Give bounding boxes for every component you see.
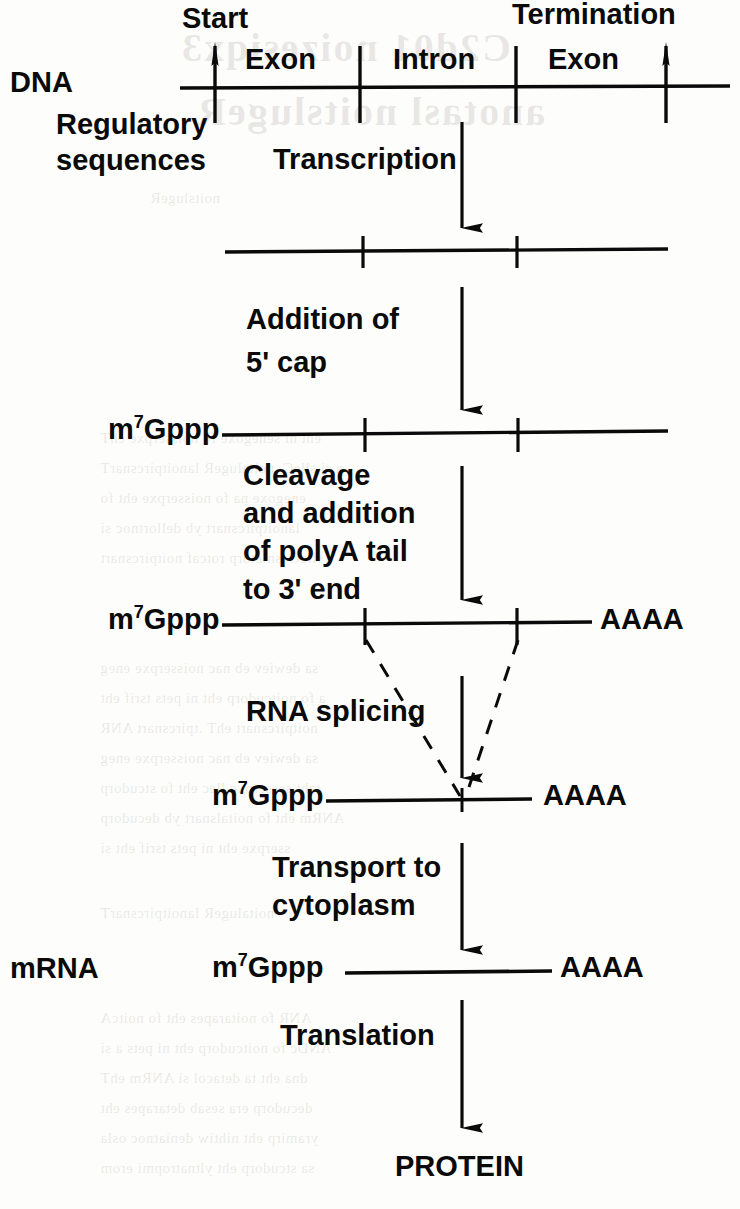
capped-backbone (222, 431, 668, 435)
cap-base: m (108, 603, 134, 635)
capped-transcript-molecule (222, 418, 668, 452)
step-capping-line1: Addition of (246, 305, 399, 335)
cap-superscript: 7 (238, 950, 248, 970)
step-transport-line2: cytoplasm (272, 891, 415, 921)
cap-superscript: 7 (134, 412, 144, 432)
mature-mrna-molecule (345, 971, 552, 973)
step-cleavage-line4: to 3' end (243, 575, 361, 605)
label-mrna: mRNA (10, 954, 99, 984)
label-regulatory-line1: Regulatory (56, 110, 207, 140)
label-start: Start (182, 4, 248, 34)
cap-rest: Gppp (248, 779, 324, 811)
primary-transcript-molecule (225, 236, 668, 268)
dna-backbone (180, 86, 730, 88)
cap-label-row5: m7Gppp (212, 781, 324, 811)
label-protein: PROTEIN (395, 1152, 524, 1182)
polya-backbone (222, 622, 592, 625)
cap-base: m (212, 951, 238, 983)
spliced-backbone (326, 799, 532, 801)
label-exon-2: Exon (548, 45, 619, 75)
mrna-backbone (345, 971, 552, 973)
splice-guide-right (466, 640, 518, 796)
step-capping-line2: 5' cap (246, 348, 327, 378)
polya-label-row6: AAAA (560, 953, 644, 983)
step-transcription: Transcription (273, 145, 457, 175)
diagram-canvas: C2d01 noizesiqx3 anotasl noitslugeR noit… (0, 0, 740, 1209)
termination-arrowhead-icon (662, 42, 669, 66)
label-regulatory-line2: sequences (56, 146, 206, 176)
step-cleavage-line3: of polyA tail (243, 537, 408, 567)
cap-label-row3: m7Gppp (108, 415, 220, 445)
step-translation: Translation (280, 1021, 435, 1051)
step-cleavage-line1: Cleavage (243, 461, 370, 491)
cap-label-row4: m7Gppp (108, 605, 220, 635)
label-termination: Termination (512, 0, 676, 30)
cap-superscript: 7 (134, 602, 144, 622)
cap-rest: Gppp (144, 413, 220, 445)
step-cleavage-line2: and addition (243, 499, 415, 529)
label-intron: Intron (393, 45, 475, 75)
label-exon-1: Exon (245, 45, 316, 75)
polya-label-row4: AAAA (600, 605, 684, 635)
spliced-mrna-molecule (326, 788, 532, 812)
cap-superscript: 7 (238, 778, 248, 798)
cap-base: m (212, 779, 238, 811)
start-arrowhead-icon (211, 42, 218, 66)
polya-label-row5: AAAA (543, 781, 627, 811)
step-transport-line1: Transport to (272, 853, 441, 883)
cap-base: m (108, 413, 134, 445)
cap-rest: Gppp (248, 951, 324, 983)
polyadenylated-transcript-molecule (222, 608, 592, 645)
transcript-backbone (225, 249, 668, 252)
label-dna: DNA (10, 68, 73, 98)
cap-rest: Gppp (144, 603, 220, 635)
cap-label-row6: m7Gppp (212, 953, 324, 983)
step-splicing: RNA splicing (246, 697, 425, 727)
